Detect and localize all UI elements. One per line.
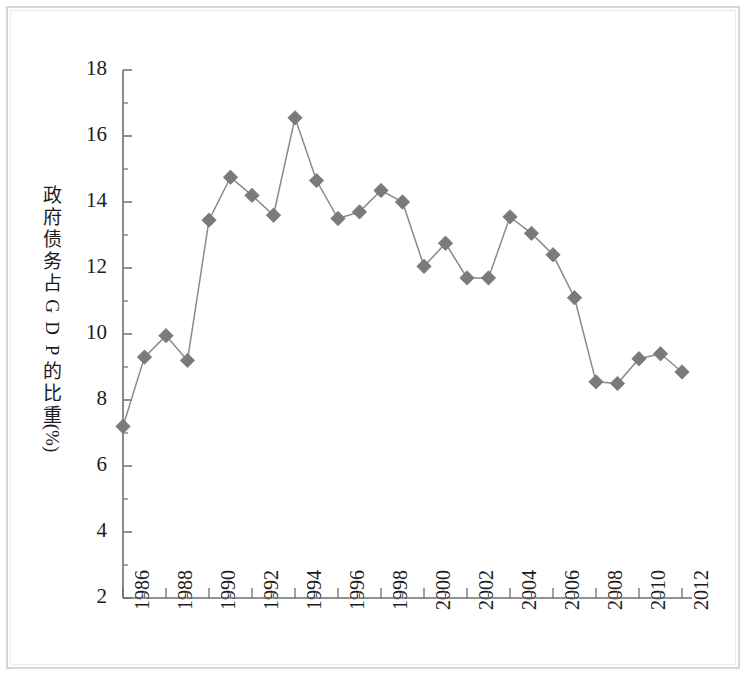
- tick-marks-group: [123, 70, 682, 598]
- data-point-marker: 2007: 11.1: [567, 291, 581, 305]
- data-point-marker: 1996: 13.5: [331, 211, 345, 225]
- data-point-marker: 1994: 16.55: [288, 111, 302, 125]
- data-point-marker: 2003: 11.7: [481, 271, 495, 285]
- data-point-marker: 2004: 13.55: [503, 210, 517, 224]
- figure-container: 政府债务占GDP的比重(%) 24681012141618 1986198819…: [0, 0, 746, 675]
- data-point-marker: 2008: 8.55: [589, 375, 603, 389]
- data-point-marker: 1999: 14: [395, 195, 409, 209]
- line-chart-plot: 1986: 7.21987: 9.31988: 9.951989: 9.2199…: [0, 0, 746, 675]
- data-series-group: 1986: 7.21987: 9.31988: 9.951989: 9.2199…: [116, 111, 689, 434]
- data-point-marker: 1986: 7.2: [116, 419, 130, 433]
- data-point-marker: 1995: 14.65: [309, 173, 323, 187]
- data-point-marker: 2002: 11.7: [460, 271, 474, 285]
- data-point-marker: 1990: 13.45: [202, 213, 216, 227]
- axes-group: [123, 70, 692, 598]
